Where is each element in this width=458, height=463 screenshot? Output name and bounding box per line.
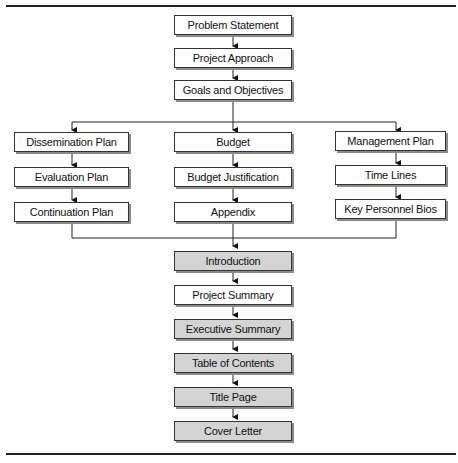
node-label: Goals and Objectives (183, 84, 284, 96)
node-time-lines: Time Lines (335, 165, 446, 185)
node-goals-objectives: Goals and Objectives (174, 80, 292, 100)
node-project-summary: Project Summary (174, 285, 292, 305)
node-continuation-plan: Continuation Plan (14, 202, 129, 222)
node-appendix: Appendix (174, 202, 292, 222)
node-label: Project Summary (192, 289, 273, 301)
node-problem-statement: Problem Statement (174, 15, 292, 35)
bottom-rule (6, 453, 456, 455)
node-label: Key Personnel Bios (344, 203, 436, 215)
node-evaluation-plan: Evaluation Plan (14, 167, 129, 187)
node-table-of-contents: Table of Contents (174, 353, 292, 373)
node-label: Title Page (209, 391, 256, 403)
node-project-approach: Project Approach (174, 48, 292, 68)
node-label: Executive Summary (186, 323, 280, 335)
node-budget: Budget (174, 132, 292, 152)
node-label: Continuation Plan (30, 206, 113, 218)
node-label: Evaluation Plan (35, 171, 108, 183)
node-management-plan: Management Plan (335, 131, 446, 151)
node-label: Budget Justification (187, 171, 278, 183)
node-label: Project Approach (193, 52, 274, 64)
node-label: Appendix (211, 206, 255, 218)
node-label: Time Lines (365, 169, 416, 181)
node-cover-letter: Cover Letter (174, 421, 292, 441)
node-title-page: Title Page (174, 387, 292, 407)
node-label: Introduction (205, 255, 260, 267)
node-label: Table of Contents (192, 357, 274, 369)
node-label: Cover Letter (204, 425, 262, 437)
node-key-personnel-bios: Key Personnel Bios (335, 199, 446, 219)
top-rule (6, 5, 456, 7)
node-budget-justification: Budget Justification (174, 167, 292, 187)
node-executive-summary: Executive Summary (174, 319, 292, 339)
node-label: Budget (216, 136, 250, 148)
node-label: Problem Statement (188, 19, 279, 31)
node-label: Management Plan (347, 135, 433, 147)
node-dissemination-plan: Dissemination Plan (14, 132, 129, 152)
node-label: Dissemination Plan (26, 136, 117, 148)
node-introduction: Introduction (174, 251, 292, 271)
